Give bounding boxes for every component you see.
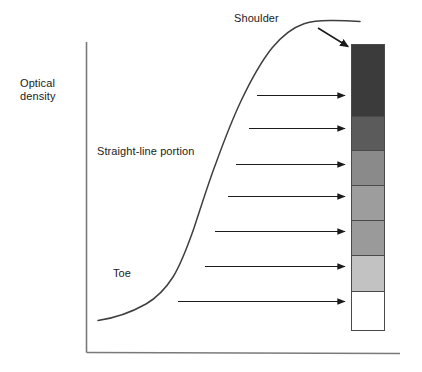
characteristic-curve <box>98 21 360 321</box>
y-axis-label-line1: Optical <box>20 77 55 89</box>
x-axis <box>87 353 401 354</box>
annotation-label-shoulder: Shoulder <box>234 12 279 25</box>
swatch-step-4 <box>352 186 384 221</box>
characteristic-curve-figure: Opticaldensity Shoulder Straight-line po… <box>0 0 422 372</box>
swatch-step-1 <box>352 45 384 117</box>
swatch-step-5 <box>352 221 384 256</box>
shoulder-pointer-arrow <box>318 28 348 47</box>
swatch-step-2 <box>352 117 384 151</box>
grey-scale-step-wedge <box>351 44 385 331</box>
y-axis-label-line2: density <box>20 90 56 102</box>
curve-group <box>98 21 360 321</box>
annotation-label-toe: Toe <box>113 267 131 280</box>
annotation-label-straight-line-portion: Straight-line portion <box>97 145 195 158</box>
swatch-step-3 <box>352 151 384 186</box>
y-axis-label: Opticaldensity <box>20 77 56 103</box>
swatch-step-6 <box>352 256 384 292</box>
swatch-step-7 <box>352 292 384 330</box>
